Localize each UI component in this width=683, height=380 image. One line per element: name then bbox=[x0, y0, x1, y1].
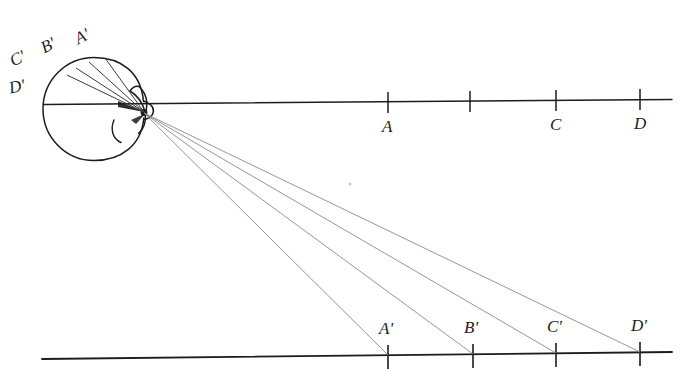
figure-canvas: C' B' A' D' A C D A' B' C' D' bbox=[0, 0, 683, 380]
image-label-d-prime: D' bbox=[631, 317, 647, 334]
ray-diagram bbox=[0, 0, 683, 380]
object-label-a: A bbox=[382, 118, 392, 135]
scan-speck bbox=[348, 182, 351, 185]
image-label-b-prime: B' bbox=[464, 319, 478, 336]
retinal-ray-d bbox=[67, 75, 144, 112]
image-label-c-prime: C' bbox=[547, 318, 562, 335]
image-line bbox=[42, 352, 672, 359]
object-label-d: D bbox=[634, 115, 646, 132]
iris-arc bbox=[112, 120, 121, 143]
object-label-c: C bbox=[550, 116, 561, 133]
projection-ray-b bbox=[144, 113, 473, 354]
image-label-a-prime: A' bbox=[379, 320, 393, 337]
projection-ray-d bbox=[144, 113, 640, 352]
retina-label-d-prime: D' bbox=[7, 77, 26, 97]
